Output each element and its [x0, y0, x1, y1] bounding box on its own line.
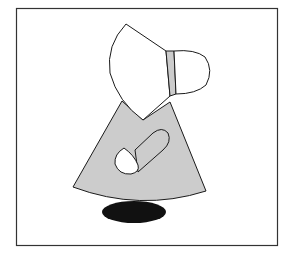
illustration-canvas	[0, 0, 283, 254]
shoe-shape	[102, 201, 166, 223]
sunbonnet-illustration	[0, 0, 283, 254]
